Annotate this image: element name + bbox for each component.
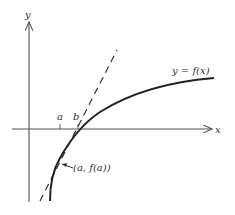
function-curve — [50, 78, 214, 201]
point-pointer-arrowhead — [62, 163, 67, 167]
x-axis-label: x — [215, 124, 221, 135]
tick-b-label: b — [73, 111, 79, 122]
point-label: (a, f(a)) — [73, 162, 111, 173]
y-axis-label: y — [24, 9, 31, 20]
tangent-line-diagram: y x a b y = f(x) (a, f(a)) — [0, 0, 235, 215]
tick-a-label: a — [57, 111, 63, 122]
curve-label: y = f(x) — [171, 65, 210, 76]
diagram-svg: y x a b y = f(x) (a, f(a)) — [0, 0, 235, 215]
